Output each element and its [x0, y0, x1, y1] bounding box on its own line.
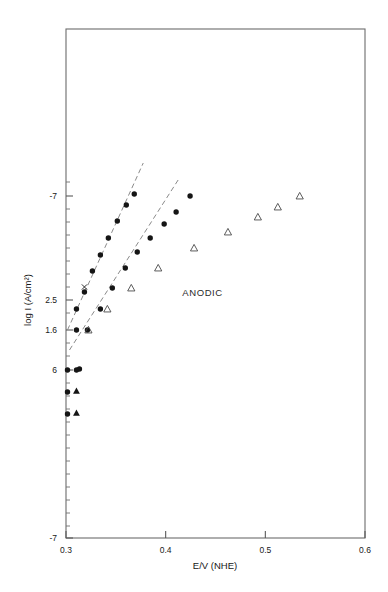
x-tick-label: 0.4: [160, 545, 172, 555]
data-point: [65, 367, 70, 372]
data-point: [173, 209, 178, 214]
data-point: [187, 193, 192, 198]
data-point: [98, 306, 103, 311]
y-tick-label: 6: [52, 365, 57, 375]
data-point: [90, 268, 95, 273]
data-point: [65, 411, 70, 416]
data-point: [123, 265, 128, 270]
data-point: [74, 327, 79, 332]
data-point: [110, 285, 115, 290]
plot-annotations: ANODIC: [182, 287, 223, 298]
annotation-anodic: ANODIC: [182, 287, 223, 298]
data-point: [132, 191, 137, 196]
y-axis-title: log I (A/cm²): [22, 274, 33, 326]
data-point: [65, 389, 70, 394]
data-point: [77, 366, 82, 371]
y-tick-label: 1.6: [45, 325, 57, 335]
y-tick-label: -7: [49, 191, 57, 201]
y-tick-label: -7: [49, 533, 57, 543]
scatter-plot: -72.51.66-7 0.30.40.50.6 ANODIC E/V (NHE…: [0, 0, 388, 592]
data-point: [74, 306, 79, 311]
data-point: [115, 218, 120, 223]
x-tick-label: 0.3: [60, 545, 72, 555]
y-tick-label: 2.5: [45, 295, 57, 305]
data-point: [98, 252, 103, 257]
data-point: [124, 202, 129, 207]
data-point: [148, 235, 153, 240]
data-point: [161, 221, 166, 226]
data-point: [106, 235, 111, 240]
x-tick-label: 0.6: [359, 545, 371, 555]
x-tick-label: 0.5: [259, 545, 271, 555]
figure-container: -72.51.66-7 0.30.40.50.6 ANODIC E/V (NHE…: [0, 0, 388, 592]
data-point: [82, 289, 87, 294]
x-axis-title: E/V (NHE): [193, 560, 237, 571]
data-point: [135, 249, 140, 254]
